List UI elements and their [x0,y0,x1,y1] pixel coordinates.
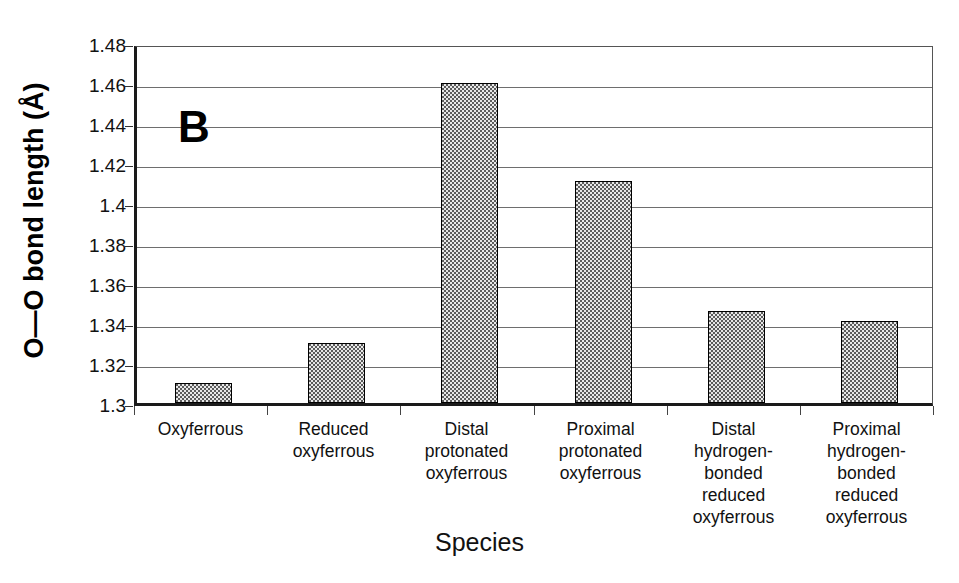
y-axis-tick-mark [125,86,133,87]
y-axis-tick-label: 1.34 [89,315,126,337]
x-axis-category-label-line: protonated [534,440,667,462]
panel-label: B [178,105,209,149]
x-axis-category-label-line: hydrogen- [667,440,800,462]
x-axis-category-label-line: reduced [800,484,933,506]
x-axis-category-label-line: oxyferrous [400,462,533,484]
x-axis-category-label-line: Proximal [534,418,667,440]
bar [708,311,765,403]
x-axis-tick-mark [933,406,934,415]
y-axis-tick-label: 1.44 [89,115,126,137]
bar [441,83,498,403]
x-axis-category-label-line: bonded [800,462,933,484]
y-axis-tick-mark [125,206,133,207]
x-axis-category-label-line: Distal [667,418,800,440]
x-axis-category-label-line: oxyferrous [800,506,933,528]
x-axis-category-label: Proximalhydrogen-bondedreducedoxyferrous [800,418,933,528]
y-axis-tick-label: 1.36 [89,275,126,297]
x-axis-tick-mark [267,406,268,415]
y-axis-tick-mark [125,366,133,367]
plot-area: B [134,46,933,406]
y-axis-tick-label: 1.48 [89,35,126,57]
bar [308,343,365,403]
y-axis-tick-label: 1.46 [89,75,126,97]
y-axis-tick-mark [125,46,133,47]
x-axis-tick-mark [134,406,135,415]
x-axis-category-label-line: oxyferrous [667,506,800,528]
y-axis-tick-label: 1.3 [100,395,126,417]
x-axis-category-label: Oxyferrous [134,418,267,440]
bar [175,383,232,403]
x-axis-tick-mark [400,406,401,415]
x-axis-category-label-line: protonated [400,440,533,462]
x-axis-category-label-line: oxyferrous [534,462,667,484]
x-axis-category-label-line: bonded [667,462,800,484]
bar [841,321,898,403]
y-axis-tick-mark [125,286,133,287]
x-axis-tick-mark [800,406,801,415]
x-axis-category-label: Distalprotonatedoxyferrous [400,418,533,484]
x-axis-category-labels: OxyferrousReducedoxyferrousDistalprotona… [134,418,933,538]
y-axis-title: O—O bond length (Å) [19,21,50,421]
x-axis-category-label-line: hydrogen- [800,440,933,462]
y-axis-tick-label: 1.4 [100,195,126,217]
x-axis-category-label-line: Oxyferrous [134,418,267,440]
y-axis-tick-mark [125,326,133,327]
x-axis-tick-mark [667,406,668,415]
x-axis-tick-mark [534,406,535,415]
x-axis-title: Species [0,528,959,557]
y-axis-tick-label: 1.42 [89,155,126,177]
x-axis-category-label: Distalhydrogen-bondedreducedoxyferrous [667,418,800,528]
y-axis-tick-mark [125,246,133,247]
y-axis-tick-mark [125,406,133,407]
y-axis-tick-label: 1.38 [89,235,126,257]
y-axis-tick-mark [125,166,133,167]
y-axis-tick-labels: 1.31.321.341.361.381.41.421.441.461.48 [54,46,126,406]
figure-panel-b: O—O bond length (Å) 1.31.321.341.361.381… [0,0,959,583]
x-axis-category-label: Proximalprotonatedoxyferrous [534,418,667,484]
y-axis-tick-mark [125,126,133,127]
x-axis-category-label-line: Proximal [800,418,933,440]
x-axis-category-label-line: Distal [400,418,533,440]
x-axis-category-label-line: reduced [667,484,800,506]
x-axis-category-label: Reducedoxyferrous [267,418,400,462]
bar [575,181,632,403]
x-axis-category-label-line: oxyferrous [267,440,400,462]
y-axis-tick-label: 1.32 [89,355,126,377]
x-axis-category-label-line: Reduced [267,418,400,440]
bar-series [137,47,932,403]
